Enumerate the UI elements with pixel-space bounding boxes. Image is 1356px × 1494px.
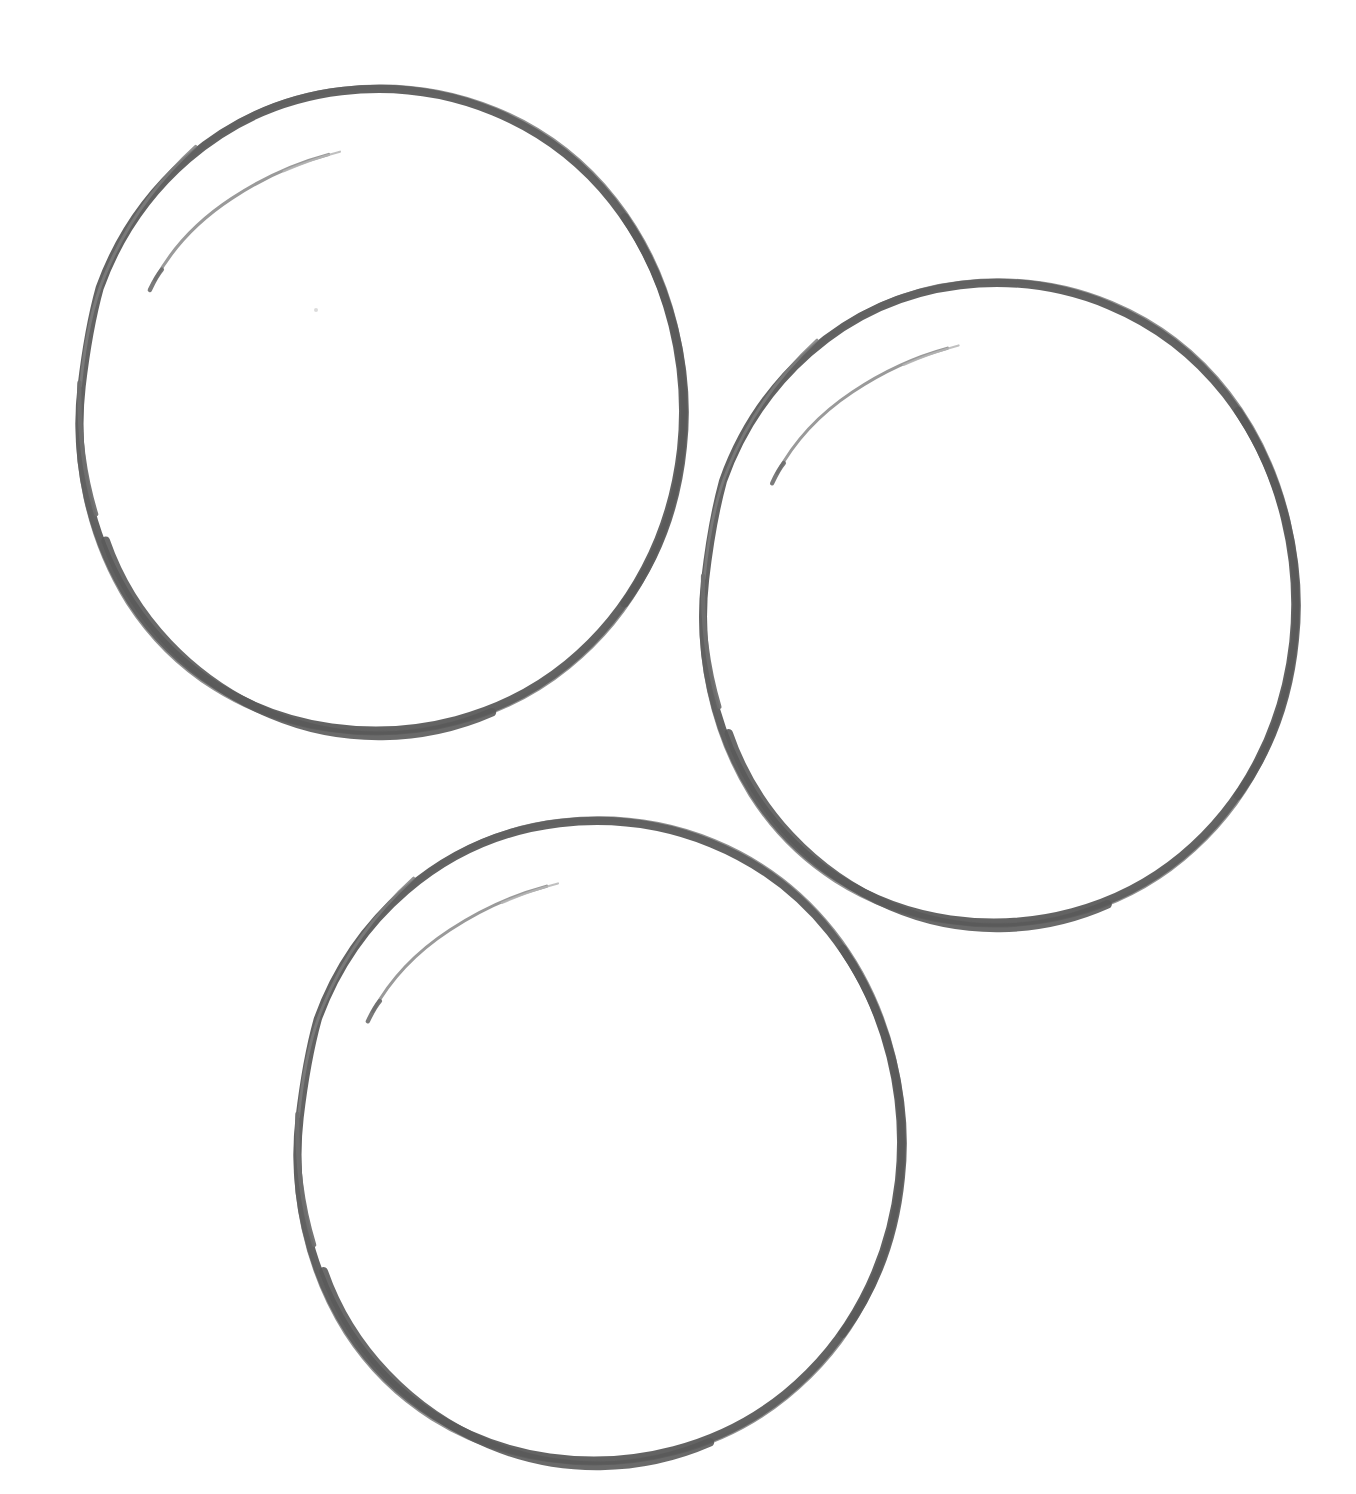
- stray-speck: [314, 308, 318, 312]
- circle-right: [680, 260, 1319, 948]
- circle-top-left: [56, 66, 708, 756]
- circle-bottom: [274, 798, 926, 1486]
- sketch-canvas: Three hand-drawn circles: [0, 0, 1356, 1494]
- sketch-svg: [0, 0, 1356, 1494]
